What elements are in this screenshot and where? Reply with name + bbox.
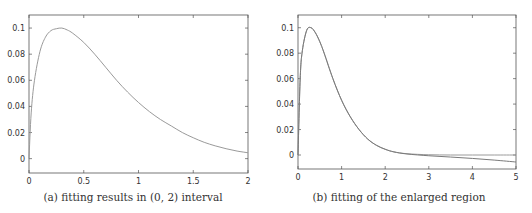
- x-tick-label: 1: [339, 173, 344, 182]
- x-tick-label: 4: [470, 173, 475, 182]
- plot-frame: [298, 15, 516, 169]
- x-tick-label: 0: [26, 177, 31, 186]
- x-tick-label: 1.5: [187, 177, 200, 186]
- x-tick-label: 3: [426, 173, 431, 182]
- y-tick-label: 0: [289, 151, 294, 160]
- x-tick-label: 2: [383, 173, 388, 182]
- chart-caption-a: (a) fitting results in (0, 2) interval: [0, 191, 266, 203]
- y-tick-label: 0.06: [276, 75, 294, 84]
- chart-panel-a: 00.511.5200.020.040.060.080.1 (a) fittin…: [0, 0, 266, 213]
- line-chart-b: 01234500.020.040.060.080.1: [266, 0, 532, 190]
- y-tick-label: 0.1: [281, 24, 294, 33]
- data-series-line: [29, 28, 248, 159]
- x-tick-label: 5: [513, 173, 518, 182]
- y-tick-label: 0.04: [7, 102, 25, 111]
- y-tick-label: 0.06: [7, 76, 25, 85]
- line-chart-a: 00.511.5200.020.040.060.080.1: [0, 0, 266, 190]
- y-tick-label: 0.02: [7, 129, 25, 138]
- chart-panel-b: 01234500.020.040.060.080.1 (b) fitting o…: [266, 0, 532, 213]
- x-tick-label: 1: [136, 177, 141, 186]
- x-tick-label: 2: [245, 177, 250, 186]
- data-series-line: [298, 27, 516, 162]
- plot-frame: [29, 15, 248, 173]
- y-tick-label: 0.02: [276, 126, 294, 135]
- y-tick-label: 0: [20, 155, 25, 164]
- x-tick-label: 0.5: [77, 177, 90, 186]
- data-series-line: [298, 27, 516, 155]
- y-tick-label: 0.08: [276, 49, 294, 58]
- chart-caption-b: (b) fitting of the enlarged region: [266, 191, 532, 203]
- x-tick-label: 0: [295, 173, 300, 182]
- y-tick-label: 0.1: [12, 24, 25, 33]
- y-tick-label: 0.04: [276, 100, 294, 109]
- y-tick-label: 0.08: [7, 50, 25, 59]
